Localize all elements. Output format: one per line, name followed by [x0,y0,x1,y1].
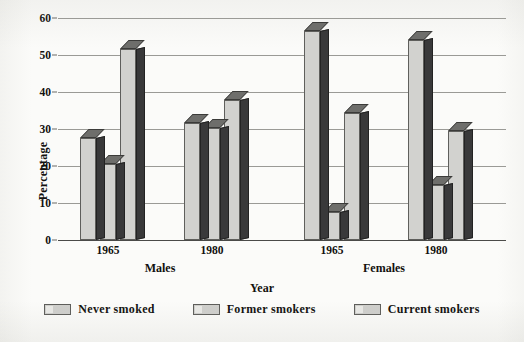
x-axis-title: Year [0,281,524,296]
y-tick-mark-40 [52,92,57,93]
x-tick-label: 1965 [97,244,120,256]
bar-side-face [340,210,349,240]
y-tick-mark-50 [52,55,57,56]
legend-swatch [44,304,71,315]
gridline-0 [58,240,506,241]
bar-front-face [304,31,320,240]
plot-area: 0102030405060 [58,18,506,240]
bar [408,40,424,240]
y-tick-label-50: 50 [40,49,52,61]
bar-side-face [464,129,473,240]
bar-side-face [220,126,229,240]
bar-side-face [116,162,125,240]
legend-label: Current smokers [388,302,480,317]
y-tick-mark-60 [52,18,57,19]
bar-side-face [424,38,433,240]
bar-side-face [444,183,453,240]
y-tick-mark-10 [52,203,57,204]
legend-swatch [354,304,381,315]
x-axis-tick-labels: 1965198019651980 [58,244,506,260]
y-tick-label-40: 40 [40,86,52,98]
chart-figure: Percentage 0102030405060 196519801965198… [0,0,524,342]
y-tick-mark-30 [52,129,57,130]
bar-front-face [184,123,200,240]
x-group-label: Males [145,261,176,276]
y-tick-label-60: 60 [40,12,52,24]
y-tick-mark-20 [52,166,57,167]
bar-side-face [96,136,105,240]
bar-side-face [136,47,145,240]
legend-label: Never smoked [78,302,154,317]
x-tick-label: 1965 [321,244,344,256]
legend-item: Never smoked [44,302,154,317]
legend-item: Current smokers [354,302,480,317]
legend-swatch [193,304,220,315]
y-tick-label-10: 10 [40,197,52,209]
bar-side-face [360,112,369,240]
y-tick-mark-0 [52,240,57,241]
bars-layer [58,18,506,240]
bar-side-face [200,122,209,240]
bar-front-face [408,40,424,240]
y-tick-label-0: 0 [45,234,51,246]
legend-item: Former smokers [193,302,316,317]
bar-side-face [320,29,329,240]
x-group-label: Females [363,261,405,276]
bar [184,123,200,240]
chart-legend: Never smokedFormer smokersCurrent smoker… [0,302,524,317]
legend-label: Former smokers [227,302,316,317]
y-tick-label-30: 30 [40,123,52,135]
x-tick-label: 1980 [425,244,448,256]
bar-front-face [80,138,96,240]
bar [304,31,320,240]
bar-side-face [240,98,249,240]
x-tick-label: 1980 [201,244,224,256]
x-axis-group-labels: MalesFemales [58,261,506,277]
bar [80,138,96,240]
y-tick-label-20: 20 [40,160,52,172]
